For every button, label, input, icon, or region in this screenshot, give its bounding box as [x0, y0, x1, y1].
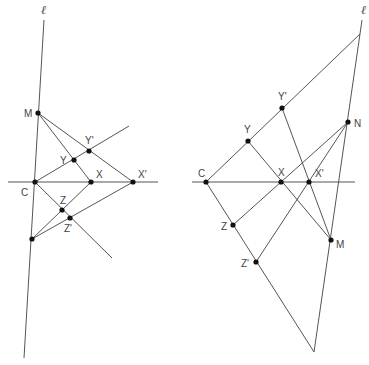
right-label-y: Y: [244, 124, 251, 135]
right-label-z: Z: [221, 221, 227, 232]
geometry-figure: ℓ M Y Y' C X X' Z Z' ℓ Y' Y N C X X' Z: [0, 0, 369, 365]
left-label-m: M: [24, 108, 32, 119]
left-point-z: [59, 207, 64, 212]
right-point-y-prime: [279, 105, 284, 110]
left-ell-label: ℓ: [41, 3, 46, 17]
left-point-y: [71, 157, 76, 162]
left-line-c-z: [35, 182, 112, 258]
left-label-x: X: [96, 169, 103, 180]
left-label-y: Y: [60, 155, 67, 166]
right-point-x-prime: [306, 179, 311, 184]
right-label-x-prime: X': [315, 168, 324, 179]
right-point-y: [245, 138, 250, 143]
left-label-z-prime: Z': [64, 223, 72, 234]
left-label-c: C: [21, 187, 28, 198]
right-point-m: [328, 237, 333, 242]
left-point-z-prime: [67, 215, 72, 220]
left-line-c-y: [35, 126, 129, 182]
right-label-z-prime: Z': [241, 258, 249, 269]
right-point-c: [203, 179, 208, 184]
left-label-z: Z: [60, 195, 66, 206]
left-point-x-prime: [130, 179, 135, 184]
left-diagram: ℓ M Y Y' C X X' Z Z': [8, 3, 158, 358]
right-point-x: [278, 179, 283, 184]
right-label-x: X: [278, 167, 285, 178]
right-label-y-prime: Y': [278, 91, 287, 102]
right-label-n: N: [354, 118, 361, 129]
left-point-y-prime: [86, 148, 91, 153]
left-label-y-prime: Y': [85, 135, 94, 146]
right-ell-label: ℓ: [361, 3, 366, 17]
right-line-ell: [314, 20, 362, 352]
left-point-c: [32, 179, 37, 184]
right-line-y-m: [248, 141, 331, 240]
right-point-z-prime: [253, 259, 258, 264]
right-label-c: C: [198, 168, 205, 179]
right-diagram: ℓ Y' Y N C X X' Z M Z': [192, 3, 366, 352]
left-point-x: [88, 179, 93, 184]
right-line-c-bottom: [206, 182, 314, 352]
left-point-p: [29, 236, 34, 241]
right-point-z: [230, 222, 235, 227]
left-line-m-x: [38, 113, 91, 182]
left-point-m: [35, 110, 40, 115]
left-label-x-prime: X': [138, 169, 147, 180]
right-label-m: M: [336, 239, 344, 250]
right-point-n: [345, 119, 350, 124]
